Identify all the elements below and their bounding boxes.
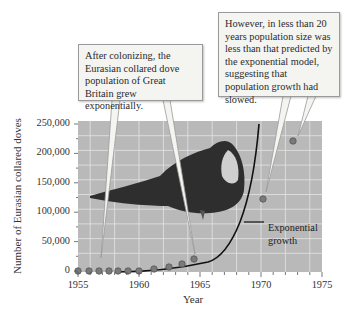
callout-exponential-growth: After colonizing, the Eurasian collared … [78,44,203,101]
xtick-label: 1970 [241,279,281,290]
xtick-label: 1955 [58,279,98,290]
xtick-label: 1975 [302,279,342,290]
callout-slowed-growth: However, in less than 20 years populatio… [218,12,340,97]
xtick-label: 1965 [180,279,220,290]
legend-line2: growth [268,235,318,248]
y-axis-title: Number of Eurasian collared doves [11,103,23,289]
xtick-label: 1960 [119,279,159,290]
legend-line1: Exponential [268,222,318,235]
x-axis-title: Year [183,293,203,305]
legend-exponential-growth: Exponential growth [268,222,318,247]
